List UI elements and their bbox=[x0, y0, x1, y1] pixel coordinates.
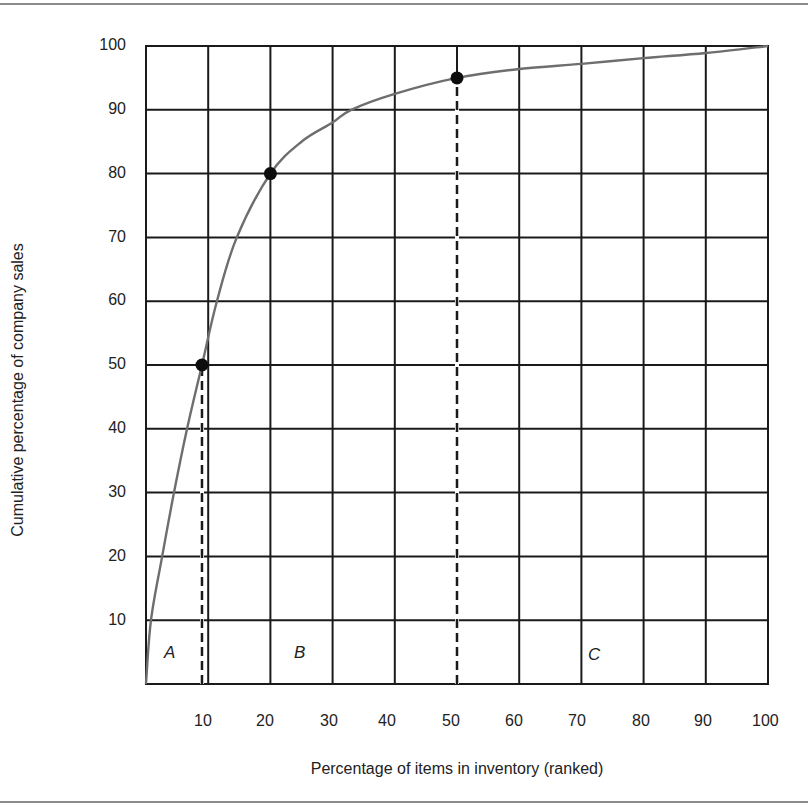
dashed-guides bbox=[202, 78, 457, 684]
y-tick-label: 30 bbox=[108, 483, 126, 501]
y-tick-label: 80 bbox=[108, 164, 126, 182]
data-markers bbox=[195, 71, 463, 371]
y-tick-label: 70 bbox=[108, 228, 126, 246]
y-tick-label: 10 bbox=[108, 611, 126, 629]
x-axis-title: Percentage of items in inventory (ranked… bbox=[311, 760, 604, 778]
abc-analysis-chart bbox=[0, 0, 808, 806]
x-tick-label: 70 bbox=[568, 712, 586, 730]
region-c-label: C bbox=[588, 645, 600, 665]
x-tick-label: 10 bbox=[194, 712, 212, 730]
x-tick-label: 20 bbox=[256, 712, 274, 730]
y-tick-label: 40 bbox=[108, 419, 126, 437]
y-tick-label: 100 bbox=[99, 36, 126, 54]
x-tick-label: 50 bbox=[442, 712, 460, 730]
y-tick-label: 60 bbox=[108, 291, 126, 309]
x-tick-label: 40 bbox=[378, 712, 396, 730]
region-b-label: B bbox=[294, 643, 305, 663]
y-tick-label: 90 bbox=[108, 100, 126, 118]
x-tick-label: 30 bbox=[320, 712, 338, 730]
data-point-marker bbox=[451, 71, 464, 84]
y-tick-label: 20 bbox=[108, 547, 126, 565]
x-tick-label: 60 bbox=[505, 712, 523, 730]
x-tick-label: 90 bbox=[694, 712, 712, 730]
x-tick-label: 80 bbox=[632, 712, 650, 730]
y-tick-label: 50 bbox=[108, 355, 126, 373]
x-tick-label: 100 bbox=[752, 712, 779, 730]
region-a-label: A bbox=[164, 643, 175, 663]
y-axis-title: Cumulative percentage of company sales bbox=[9, 243, 27, 537]
data-point-marker bbox=[264, 167, 277, 180]
data-point-marker bbox=[195, 359, 208, 372]
